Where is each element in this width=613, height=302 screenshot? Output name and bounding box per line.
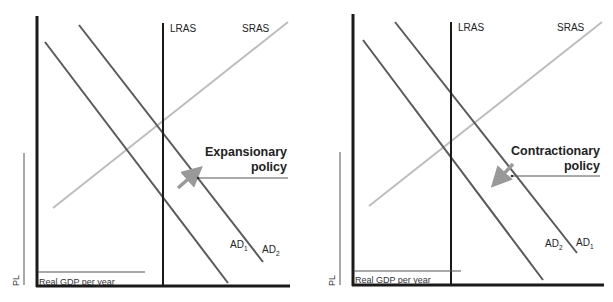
sras-label: SRAS — [242, 23, 270, 34]
ad2-label: AD2 — [545, 238, 563, 251]
ad2-label: AD2 — [262, 244, 280, 257]
sras-label: SRAS — [557, 22, 585, 33]
ad1-curve — [395, 22, 577, 253]
ad2-curve — [363, 40, 543, 280]
sras-curve — [369, 22, 602, 206]
lras-label: LRAS — [458, 22, 484, 33]
ad1-label: AD1 — [230, 239, 248, 252]
y-axis-label: PL — [11, 275, 21, 286]
policy-title-line2: policy — [564, 159, 600, 173]
lras-label: LRAS — [170, 23, 196, 34]
policy-title-line1: Expansionary — [205, 145, 287, 159]
ad1-label: AD1 — [576, 237, 594, 250]
right-diagram-contractionary: LRAS SRAS Contractionary policy AD1 AD2 … — [327, 14, 604, 286]
x-axis-label: Real GDP per year — [39, 277, 115, 287]
shift-arrow-icon — [498, 164, 513, 180]
policy-pointer-dot — [197, 177, 200, 180]
ad-as-diagrams: LRAS SRAS Expansionary policy AD2 AD1 PL… — [0, 0, 613, 302]
shift-arrow-icon — [178, 173, 195, 188]
y-axis-label: PL — [327, 275, 337, 286]
policy-title-line1: Contractionary — [511, 144, 600, 158]
ad1-curve — [45, 42, 228, 283]
ad2-curve — [79, 25, 263, 262]
sras-curve — [53, 22, 288, 208]
policy-pointer-dot — [511, 175, 514, 178]
policy-title-line2: policy — [251, 160, 287, 174]
x-axis-label: Real GDP per year — [355, 275, 431, 285]
left-diagram-expansionary: LRAS SRAS Expansionary policy AD2 AD1 PL… — [11, 16, 290, 287]
